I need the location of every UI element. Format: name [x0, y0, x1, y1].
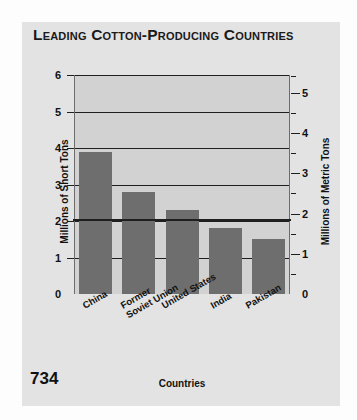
y-tick-mark-right-4 — [291, 133, 300, 134]
bar-series — [75, 75, 289, 294]
y-tick-mark-right-minor-5 — [291, 76, 296, 77]
y-tick-left-0: 0 — [21, 288, 61, 300]
x-axis-baseline — [73, 219, 291, 221]
y-tick-mark-left-2 — [67, 221, 74, 222]
y-tick-right-1: 1 — [302, 248, 332, 260]
y-tick-mark-left-4 — [67, 148, 74, 149]
plot-area — [74, 75, 290, 294]
y-axis-label-left: Millions of Short Tons — [59, 112, 70, 272]
y-tick-mark-right-minor-0 — [291, 274, 296, 275]
y-tick-mark-right-2 — [291, 214, 300, 215]
y-tick-left-4: 4 — [21, 142, 61, 154]
page-number: 734 — [30, 369, 58, 389]
y-tick-left-6: 6 — [21, 69, 61, 81]
y-tick-right-2: 2 — [302, 208, 332, 220]
y-tick-left-2: 2 — [21, 215, 61, 227]
y-tick-mark-right-1 — [291, 254, 300, 255]
y-tick-mark-right-minor-2 — [291, 193, 296, 194]
plot-wrap — [74, 75, 290, 294]
y-tick-right-5: 5 — [302, 87, 332, 99]
y-tick-mark-right-minor-1 — [291, 234, 296, 235]
x-axis-label: Countries — [74, 378, 290, 389]
bar-india — [209, 228, 242, 294]
y-tick-right-0: 0 — [302, 288, 332, 300]
y-tick-left-3: 3 — [21, 179, 61, 191]
y-tick-right-4: 4 — [302, 127, 332, 139]
y-tick-mark-left-5 — [67, 112, 74, 113]
y-tick-mark-left-6 — [67, 75, 74, 76]
y-tick-mark-right-minor-3 — [291, 153, 296, 154]
bar-former-soviet-union — [122, 192, 155, 294]
y-tick-mark-right-3 — [291, 173, 300, 174]
y-tick-left-1: 1 — [21, 252, 61, 264]
bar-china — [79, 152, 112, 294]
y-tick-mark-right-5 — [291, 93, 300, 94]
y-tick-mark-right-minor-4 — [291, 113, 296, 114]
y-tick-mark-left-1 — [67, 258, 74, 259]
y-tick-right-3: 3 — [302, 167, 332, 179]
page: Leading Cotton-Producing Countries Milli… — [0, 0, 357, 420]
chart-title: Leading Cotton-Producing Countries — [33, 26, 313, 44]
y-tick-left-5: 5 — [21, 106, 61, 118]
y-tick-mark-left-3 — [67, 185, 74, 186]
